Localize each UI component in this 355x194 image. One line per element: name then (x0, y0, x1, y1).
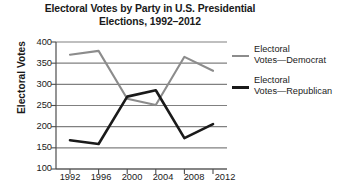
y-axis-ticks (51, 42, 56, 169)
legend-swatch-democrat-icon (232, 55, 249, 57)
legend-label-republican-line-1: Electoral (254, 75, 290, 85)
legend-label-democrat: Electoral Votes—Democrat (254, 44, 326, 66)
data-line-democrat (70, 51, 213, 105)
legend-label-democrat-line-1: Electoral (254, 44, 290, 54)
legend-swatch-republican-icon (232, 86, 249, 89)
legend-label-republican: Electoral Votes—Republican (254, 75, 332, 97)
legend-item-republican[interactable]: Electoral Votes—Republican (232, 75, 355, 97)
chart-legend: Electoral Votes—Democrat Electoral Votes… (232, 44, 355, 106)
data-line-republican (70, 90, 213, 144)
gridlines (56, 42, 227, 169)
x-axis-ticks (70, 169, 213, 174)
legend-label-republican-line-2: Votes—Republican (254, 86, 332, 96)
legend-item-democrat[interactable]: Electoral Votes—Democrat (232, 44, 355, 66)
legend-label-democrat-line-2: Votes—Democrat (254, 55, 326, 65)
chart-container: Electoral Votes by Party in U.S. Preside… (0, 0, 355, 194)
